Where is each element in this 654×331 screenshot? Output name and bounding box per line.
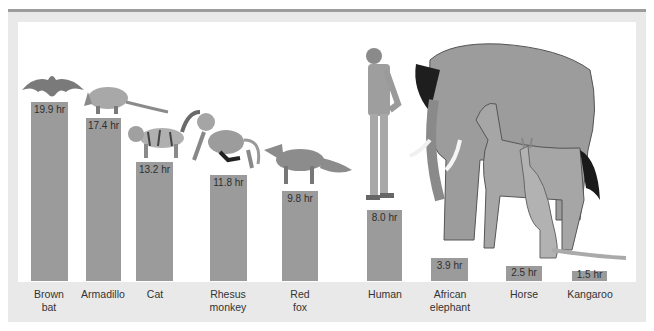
category-label-horse: Horse <box>489 288 559 301</box>
bar-african-elephant: 3.9 hr <box>431 258 468 281</box>
fox-icon <box>264 144 352 184</box>
category-label-kangaroo: Kangaroo <box>555 288 625 301</box>
bar-brown-bat: 19.9 hr <box>31 102 68 281</box>
armadillo-icon <box>84 87 168 114</box>
bar-kangaroo: 1.5 hr <box>572 271 607 281</box>
category-label-african-elephant: African elephant <box>415 288 485 314</box>
bat-icon <box>22 76 84 97</box>
value-label: 17.4 hr <box>86 120 121 131</box>
value-label: 8.0 hr <box>367 212 402 223</box>
value-label: 9.8 hr <box>282 193 318 204</box>
human-icon <box>366 48 398 200</box>
bar-armadillo: 17.4 hr <box>86 118 121 281</box>
value-label: 1.5 hr <box>572 269 607 280</box>
bar-horse: 2.5 hr <box>506 266 542 281</box>
category-label-human: Human <box>350 288 420 301</box>
value-label: 13.2 hr <box>136 164 173 175</box>
category-label-rhesus-monkey: Rhesus monkey <box>193 288 263 314</box>
value-label: 3.9 hr <box>431 260 468 271</box>
cat-icon <box>128 112 200 158</box>
bar-human: 8.0 hr <box>367 210 402 281</box>
monkey-icon <box>194 113 259 168</box>
bar-cat: 13.2 hr <box>136 162 173 281</box>
value-label: 11.8 hr <box>210 177 247 188</box>
category-label-cat: Cat <box>120 288 190 301</box>
bar-red-fox: 9.8 hr <box>282 191 318 281</box>
value-label: 2.5 hr <box>506 267 542 278</box>
value-label: 19.9 hr <box>31 104 68 115</box>
bar-rhesus-monkey: 11.8 hr <box>210 175 247 281</box>
category-label-red-fox: Red fox <box>265 288 335 314</box>
